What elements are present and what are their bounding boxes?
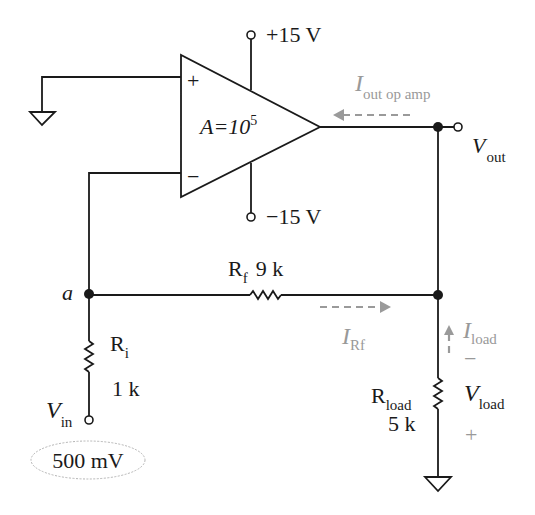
rf-name: R	[228, 256, 243, 281]
load-current-arrow	[444, 325, 454, 353]
minus-terminal-label: −	[187, 164, 199, 189]
ground-symbol-noninverting	[30, 77, 181, 125]
vin-value: 500 mV	[52, 448, 124, 473]
plus-terminal-label: +	[187, 68, 199, 93]
vout-sub: out	[486, 149, 506, 165]
op-amp-current-sub: out op amp	[363, 86, 431, 102]
supply-terminal-icon	[247, 213, 255, 221]
ri-value: 1 k	[112, 376, 140, 401]
rf-resistor-icon	[250, 291, 281, 299]
ri-resistor-icon	[85, 341, 93, 372]
rload-resistor-icon	[434, 378, 442, 409]
vin-sub: in	[61, 414, 73, 430]
rf-current-sub: Rf	[350, 337, 365, 353]
rf-value: 9 k	[256, 256, 284, 281]
vin-terminal-icon	[85, 416, 93, 424]
circuit-diagram: + − A=105 +15 V −15 V Vout Iout op amp a…	[0, 0, 535, 515]
vout-terminal-icon	[454, 123, 462, 131]
ground-symbol-load	[425, 477, 451, 491]
rload-name: R	[371, 383, 386, 408]
feedback-junction-dot	[433, 290, 443, 300]
negative-supply: −15 V	[247, 163, 322, 229]
vload-minus: −	[464, 346, 476, 371]
positive-supply-label: +15 V	[266, 22, 322, 47]
rf-current-arrow	[320, 301, 391, 313]
ri-sub: i	[125, 345, 129, 361]
svg-text:Iout op amp: Iout op amp	[354, 70, 431, 102]
supply-terminal-icon	[247, 31, 255, 39]
gain-exponent: 5	[250, 113, 257, 128]
svg-text:Ri: Ri	[110, 331, 129, 361]
ri-name: R	[110, 331, 125, 356]
rf-sub: f	[243, 270, 248, 286]
vload-plus: +	[465, 422, 477, 447]
load-current-sub: load	[471, 331, 497, 347]
svg-text:Vin: Vin	[46, 397, 73, 430]
inverting-input-wire	[89, 173, 181, 293]
svg-text:Vload: Vload	[464, 380, 505, 412]
svg-text:Rf9 k: Rf9 k	[228, 256, 283, 286]
vload-sub: load	[479, 396, 505, 412]
negative-supply-label: −15 V	[266, 204, 322, 229]
op-amp-output-current-arrow	[333, 109, 410, 121]
svg-text:A=105: A=105	[198, 113, 257, 139]
positive-supply: +15 V	[247, 22, 322, 90]
rload-value: 5 k	[388, 411, 416, 436]
svg-text:IRf: IRf	[341, 323, 365, 353]
svg-text:Iload: Iload	[462, 317, 497, 347]
node-a-label: a	[62, 280, 73, 305]
svg-text:Rload: Rload	[371, 383, 412, 413]
gain-label: A=10	[198, 114, 250, 139]
svg-text:Vout: Vout	[472, 133, 506, 165]
